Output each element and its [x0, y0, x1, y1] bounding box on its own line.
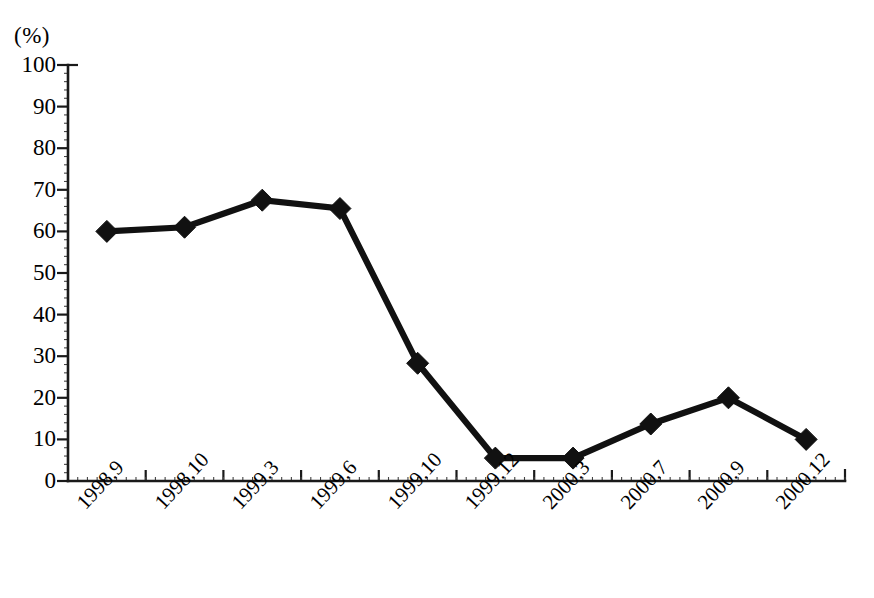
x-axis-tick-label: 1999.10: [384, 449, 446, 513]
x-axis-tick-label: 1998.9: [73, 457, 128, 514]
x-axis-tick-label: 1998.10: [151, 449, 213, 513]
line-chart: (%) 100 90 80 70 60 50 40 30 20 10 0 199…: [0, 0, 874, 598]
x-axis-tick-label: 2000.12: [772, 449, 834, 513]
x-axis-tick-label: 2000.9: [694, 457, 749, 514]
x-axis-tick-label: 1999.3: [228, 457, 283, 514]
x-axis-tick-label: 1999.6: [306, 457, 361, 514]
x-axis-tick-label: 2000.3: [539, 457, 594, 514]
x-axis-tick-label: 2000.7: [617, 457, 672, 514]
x-axis-tick-label: 1999.12: [461, 449, 523, 513]
x-axis-tick-label-group: 1998.9 1998.10 1999.3 1999.6 1999.10 199…: [0, 0, 874, 598]
